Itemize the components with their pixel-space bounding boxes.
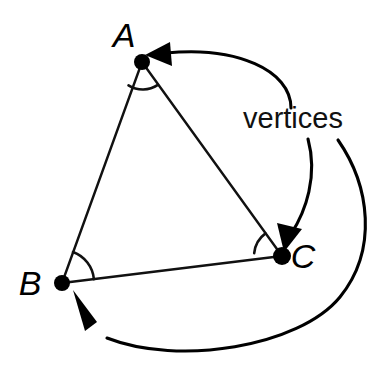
- pointer-curve-to-b: [107, 140, 365, 351]
- angle-arc-c: [254, 233, 265, 253]
- pointer-arrowhead-to-b: [73, 290, 97, 331]
- figure-canvas: A B C vertices: [0, 0, 385, 368]
- callout-pointers: [73, 42, 365, 351]
- pointer-curve-to-a: [166, 52, 291, 108]
- edge-ac: [142, 62, 282, 256]
- angle-arc-b: [73, 252, 94, 279]
- vertex-label-b: B: [19, 264, 42, 302]
- vertex-label-a: A: [111, 16, 136, 54]
- edge-ab: [62, 62, 142, 283]
- vertex-dots: [54, 54, 291, 291]
- vertex-dot-c: [273, 247, 291, 265]
- triangle-edges: [62, 62, 282, 283]
- callout-label-vertices: vertices: [243, 102, 343, 134]
- pointer-curve-to-c: [291, 139, 312, 234]
- triangle-vertices-diagram: A B C vertices: [0, 0, 385, 368]
- angle-arcs: [73, 85, 266, 279]
- vertex-dot-a: [134, 54, 150, 70]
- vertex-dot-b: [54, 275, 70, 291]
- vertex-label-c: C: [291, 237, 316, 275]
